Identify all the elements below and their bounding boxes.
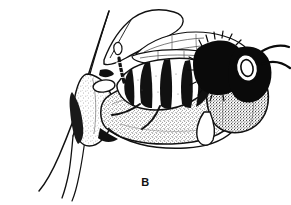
figure-container: B bbox=[0, 0, 291, 205]
bee-on-flower-illustration bbox=[0, 0, 291, 205]
figure-panel-label: B bbox=[0, 176, 291, 189]
